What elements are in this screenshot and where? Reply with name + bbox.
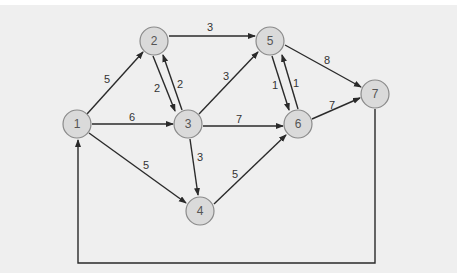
edge-weight: 5 (232, 168, 238, 180)
node-4: 4 (186, 197, 214, 225)
edge-weight: 1 (272, 79, 278, 91)
edge-weight: 7 (236, 113, 242, 125)
svg-text:3: 3 (185, 117, 192, 131)
svg-text:5: 5 (267, 34, 274, 48)
edge-weight: 2 (177, 78, 183, 90)
edge-weight: 5 (104, 73, 110, 85)
edge-weight: 3 (223, 70, 229, 82)
node-5: 5 (256, 27, 284, 55)
svg-text:1: 1 (74, 117, 81, 131)
svg-text:2: 2 (151, 34, 158, 48)
edge-weight: 8 (324, 54, 330, 66)
edge-1-4 (89, 133, 186, 203)
edge-weight: 7 (329, 99, 335, 111)
svg-text:6: 6 (295, 117, 302, 131)
graph-canvas: 5 6 5 3 2 2 3 7 3 5 1 1 8 (0, 0, 467, 278)
edge-weight: 3 (207, 21, 213, 33)
edge-6-7 (312, 98, 360, 119)
node-7: 7 (361, 80, 389, 108)
edge-weight: 6 (129, 111, 135, 123)
edge-7-1 (78, 109, 375, 263)
edge-weight: 2 (154, 82, 160, 94)
node-2: 2 (140, 27, 168, 55)
edge-1-2 (87, 52, 143, 114)
edge-weight: 1 (293, 77, 299, 89)
edge-weight: 3 (197, 151, 203, 163)
node-1: 1 (63, 110, 91, 138)
node-3: 3 (174, 110, 202, 138)
edge-4-6 (214, 135, 286, 204)
edge-weight: 5 (143, 159, 149, 171)
svg-text:4: 4 (197, 204, 204, 218)
svg-text:7: 7 (372, 87, 379, 101)
edge-3-4 (190, 139, 198, 195)
edge-3-5 (199, 52, 258, 114)
node-6: 6 (284, 110, 312, 138)
